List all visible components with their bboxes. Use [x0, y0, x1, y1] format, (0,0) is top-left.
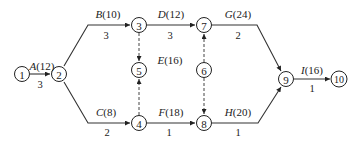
activity-g-duration: 2 — [235, 30, 240, 41]
edge-g — [212, 25, 281, 71]
activity-a-label: A(12) — [28, 60, 54, 73]
activity-f-duration: 1 — [166, 127, 171, 138]
activity-f-label: F(18) — [157, 106, 183, 119]
svg-text:9: 9 — [283, 74, 289, 86]
node-4: 4 — [132, 116, 147, 131]
node-1: 1 — [15, 67, 30, 82]
node-3: 3 — [132, 18, 147, 33]
node-9: 9 — [279, 72, 294, 87]
svg-text:6: 6 — [201, 65, 207, 77]
activity-h-label: H(20) — [224, 106, 252, 119]
svg-text:2: 2 — [56, 69, 62, 81]
node-6: 6 — [197, 63, 212, 78]
activity-h-duration: 1 — [235, 127, 240, 138]
activity-i-label: I(16) — [300, 64, 323, 77]
activity-b-duration: 3 — [103, 30, 108, 41]
node-5: 5 — [132, 63, 147, 78]
activity-d-label: D(12) — [157, 8, 185, 21]
activity-c-label: C(8) — [96, 106, 117, 119]
edge-b — [64, 25, 130, 66]
activity-d-duration: 3 — [167, 30, 172, 41]
activity-i-duration: 1 — [309, 83, 314, 94]
network-diagram: 1 2 3 4 5 6 7 8 9 10 A(12) 3 B(10) 3 C(8… — [0, 0, 360, 147]
svg-text:7: 7 — [201, 20, 207, 32]
svg-text:10: 10 — [334, 74, 344, 85]
svg-text:3: 3 — [136, 20, 142, 32]
svg-text:8: 8 — [201, 118, 207, 130]
activity-g-label: G(24) — [225, 8, 252, 21]
svg-text:1: 1 — [19, 69, 25, 81]
node-7: 7 — [197, 18, 212, 33]
activity-b-label: B(10) — [95, 8, 120, 21]
activity-a-duration: 3 — [37, 79, 42, 90]
svg-text:4: 4 — [136, 118, 142, 130]
node-10: 10 — [331, 71, 347, 87]
node-8: 8 — [197, 116, 212, 131]
activity-c-duration: 2 — [104, 127, 109, 138]
svg-text:5: 5 — [136, 65, 142, 77]
activity-e-label: E(16) — [156, 54, 182, 67]
